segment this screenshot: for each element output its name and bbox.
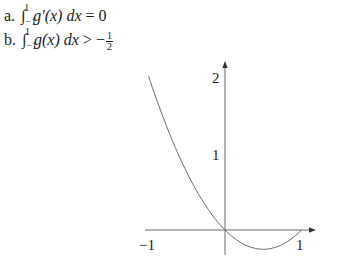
y-tick-2: 2: [212, 70, 220, 86]
x-tick-1: 1: [296, 237, 304, 253]
y-tick-1: 1: [212, 147, 220, 163]
graph: −1 1 1 2: [0, 0, 344, 260]
x-tick-neg1: −1: [139, 237, 155, 253]
